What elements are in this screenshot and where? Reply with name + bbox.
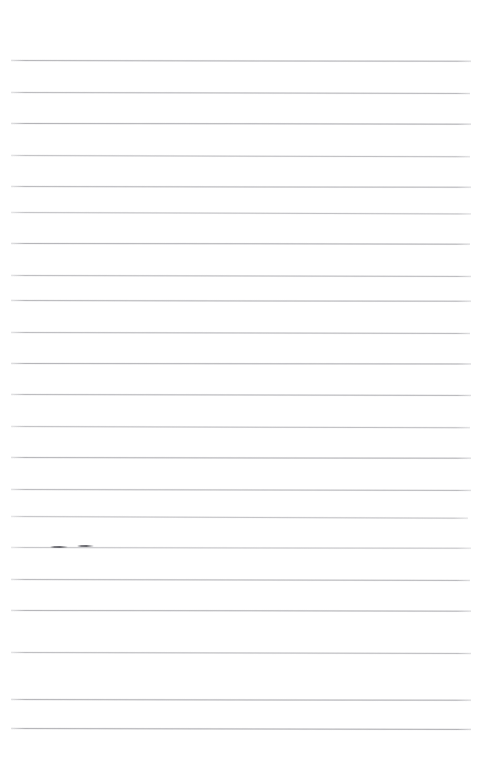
rule-line-left-fade — [11, 299, 25, 302]
pencil-dash-left — [50, 546, 68, 548]
rule-line-right-fade — [457, 212, 471, 215]
rule-line — [11, 610, 471, 612]
rule-line-left-fade — [11, 91, 25, 94]
rule-line-right-fade — [457, 300, 471, 303]
rule-line-right-fade — [457, 123, 471, 126]
rule-line-right-fade — [456, 243, 470, 246]
rule-line-left-fade — [11, 122, 25, 125]
rule-line-left-fade — [11, 185, 25, 188]
rule-line-left-fade — [11, 515, 25, 518]
pencil-dash-right — [77, 545, 94, 547]
rule-line-left-fade — [11, 154, 25, 157]
rule-line — [11, 243, 470, 245]
rule-line-right-fade — [457, 547, 471, 550]
rule-line-right-fade — [457, 652, 471, 655]
rule-line — [11, 92, 470, 94]
rule-line-right-fade — [457, 394, 471, 397]
rule-line — [11, 123, 471, 125]
rule-line — [11, 457, 471, 459]
rule-line-left-fade — [11, 331, 25, 334]
rule-line-right-fade — [456, 332, 470, 335]
rule-line — [11, 699, 471, 701]
rule-line — [11, 489, 471, 491]
rule-line-left-fade — [11, 425, 25, 428]
rule-line — [11, 332, 470, 334]
rule-line — [11, 60, 471, 62]
scanned-page — [0, 0, 483, 765]
rule-line-left-fade — [11, 698, 25, 701]
rule-line — [11, 547, 471, 549]
rule-line-right-fade — [457, 275, 471, 278]
rule-line-right-fade — [456, 426, 470, 429]
rule-line-left-fade — [11, 609, 25, 612]
rule-line-left-fade — [11, 393, 25, 396]
paper-surface — [0, 0, 483, 765]
rule-line-left-fade — [11, 727, 25, 730]
rule-line-left-fade — [11, 651, 25, 654]
rule-line — [11, 652, 471, 654]
rule-line-left-fade — [11, 242, 25, 245]
rule-line-left-fade — [11, 578, 25, 581]
rule-line-right-fade — [457, 186, 471, 189]
rule-line-right-fade — [457, 60, 471, 63]
rule-line — [11, 516, 468, 519]
rule-line-left-fade — [11, 362, 25, 365]
rule-line — [11, 394, 471, 396]
rule-line — [11, 300, 471, 302]
rule-line — [11, 212, 471, 214]
rule-line — [11, 186, 471, 188]
rule-line-right-fade — [457, 728, 471, 731]
rule-line-right-fade — [457, 363, 471, 366]
rule-line-right-fade — [456, 579, 470, 582]
rule-line-left-fade — [11, 546, 25, 549]
rule-line-right-fade — [457, 457, 471, 460]
rule-line-right-fade — [457, 489, 471, 492]
rule-line — [11, 579, 470, 581]
rule-line-left-fade — [11, 488, 25, 491]
rule-line-right-fade — [456, 155, 470, 158]
rule-line — [11, 155, 470, 157]
rule-line-left-fade — [11, 211, 25, 214]
rule-line-right-fade — [454, 517, 468, 520]
rule-line — [11, 426, 470, 428]
rule-line-left-fade — [11, 274, 25, 277]
rule-line-right-fade — [457, 610, 471, 613]
rule-line-left-fade — [11, 59, 25, 62]
rule-line — [11, 275, 471, 277]
rule-line — [11, 728, 471, 730]
rule-line — [11, 363, 471, 365]
rule-line-right-fade — [457, 699, 471, 702]
rule-line-right-fade — [456, 92, 470, 95]
rule-line-left-fade — [11, 456, 25, 459]
